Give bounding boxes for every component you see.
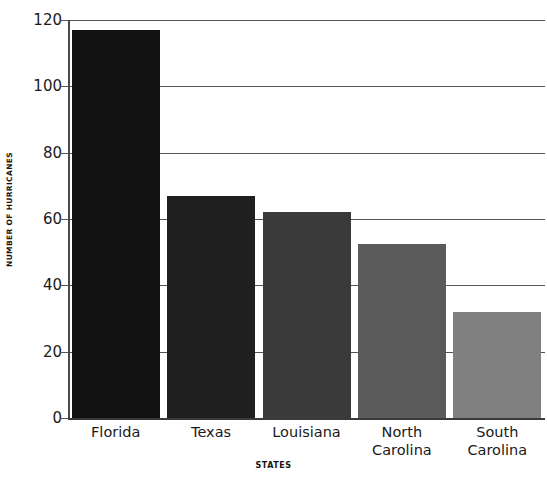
- y-axis-tick-mark: [60, 20, 68, 21]
- y-axis-tick-mark: [60, 153, 68, 154]
- x-axis-title: STATES: [0, 461, 547, 470]
- x-axis-tick-label: NorthCarolina: [354, 423, 449, 459]
- y-axis-tick-labels: 020406080100120: [18, 0, 68, 482]
- bar[interactable]: [453, 312, 541, 418]
- bar[interactable]: [358, 244, 446, 418]
- bar[interactable]: [72, 30, 160, 418]
- x-axis-tick-label: SouthCarolina: [450, 423, 545, 459]
- y-axis-tick-mark: [60, 352, 68, 353]
- x-axis-tick-label: Florida: [68, 423, 163, 441]
- bar-chart: NUMBER OF HURRICANES 020406080100120 Flo…: [0, 0, 547, 482]
- x-axis-tick-label-line: Louisiana: [259, 423, 354, 441]
- x-axis-tick-label-line: Carolina: [450, 441, 545, 459]
- x-axis-line: [68, 418, 545, 420]
- bar[interactable]: [167, 196, 255, 418]
- bar[interactable]: [263, 212, 351, 418]
- y-axis-tick-mark: [60, 285, 68, 286]
- y-axis-tick-label: 120: [33, 11, 62, 29]
- x-axis-tick-label: Texas: [163, 423, 258, 441]
- bars-group: [68, 20, 545, 418]
- y-axis-title-text: NUMBER OF HURRICANES: [5, 152, 14, 267]
- y-axis-tick-mark: [60, 86, 68, 87]
- x-axis-tick-label: Louisiana: [259, 423, 354, 441]
- x-axis-tick-labels: FloridaTexasLouisianaNorthCarolinaSouthC…: [68, 423, 545, 465]
- x-axis-tick-label-line: North: [354, 423, 449, 441]
- plot-area: [68, 20, 545, 418]
- x-axis-tick-label-line: Florida: [68, 423, 163, 441]
- x-axis-tick-label-line: South: [450, 423, 545, 441]
- y-axis-title: NUMBER OF HURRICANES: [0, 0, 18, 418]
- y-axis-tick-mark: [60, 219, 68, 220]
- x-axis-tick-label-line: Carolina: [354, 441, 449, 459]
- y-axis-tick-mark: [60, 418, 68, 419]
- y-axis-tick-label: 100: [33, 77, 62, 95]
- x-axis-tick-label-line: Texas: [163, 423, 258, 441]
